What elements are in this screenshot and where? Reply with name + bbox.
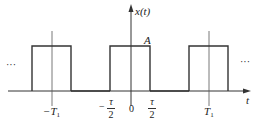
ellipsis-right: ··· — [240, 57, 250, 67]
time-axis-arrow-icon — [243, 89, 251, 94]
tick-neg-half-tau-sign: − — [99, 102, 105, 112]
tick-pos-period-sub: 1 — [210, 111, 214, 119]
tick-pos-half-tau: τ 2 — [148, 97, 156, 120]
tick-neg-period-main: −T — [43, 105, 57, 117]
tick-neg-period: −T1 — [43, 106, 60, 119]
pulse-train-diagram: x(t) A ··· ··· t −T1 − τ 2 0 τ 2 T1 — [0, 0, 257, 126]
signal-axis-arrow-icon — [129, 4, 134, 12]
tick-neg-half-tau: − τ 2 — [107, 97, 115, 120]
amplitude-label: A — [144, 35, 151, 46]
tick-neg-half-tau-den: 2 — [107, 110, 115, 120]
signal-label: x(t) — [135, 6, 150, 17]
tick-pos-period: T1 — [204, 106, 214, 119]
tick-neg-period-sub: 1 — [57, 111, 61, 119]
pulse-left — [32, 46, 71, 91]
tick-origin: 0 — [129, 104, 134, 114]
pulse-right — [189, 46, 228, 91]
ellipsis-left: ··· — [6, 60, 16, 70]
tick-pos-half-tau-den: 2 — [148, 110, 156, 120]
tick-pos-half-tau-num: τ — [148, 97, 156, 107]
pulse-center — [110, 46, 150, 91]
time-axis-label: t — [246, 95, 249, 106]
tick-neg-half-tau-num: τ — [107, 97, 115, 107]
